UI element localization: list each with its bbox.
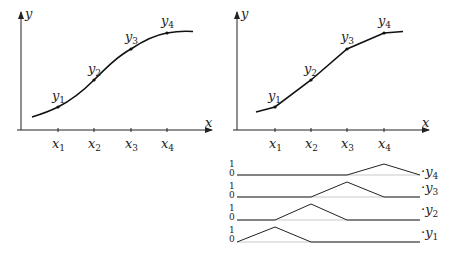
- svg-text:0: 0: [229, 190, 235, 200]
- svg-text:·y2: ·y2: [421, 202, 438, 219]
- svg-text:x4: x4: [161, 136, 174, 153]
- basis-row-y1: 1 0 ·y1: [229, 225, 438, 244]
- left-chart: y x x1 x2 x3 x4 y1 y2 y3 y4: [17, 6, 213, 153]
- svg-text:0: 0: [229, 168, 235, 178]
- svg-text:0: 0: [229, 234, 235, 244]
- x-tick-labels: x1 x2 x3 x4: [269, 136, 391, 153]
- svg-text:y3: y3: [340, 29, 354, 46]
- svg-text:x3: x3: [125, 136, 138, 153]
- basis-row-y3: 1 0 ·y3: [229, 180, 439, 200]
- svg-text:x2: x2: [88, 136, 101, 153]
- svg-text:·y4: ·y4: [421, 164, 439, 181]
- x-axis-label: x: [205, 115, 213, 130]
- x-tick-labels: x1 x2 x3 x4: [52, 136, 174, 153]
- basis-row-y4: 1 0 ·y4: [229, 159, 439, 181]
- diagram-canvas: y x x1 x2 x3 x4 y1 y2 y3 y4: [0, 0, 453, 256]
- svg-text:x1: x1: [52, 136, 65, 153]
- svg-text:·y3: ·y3: [421, 180, 439, 197]
- svg-text:y4: y4: [377, 13, 391, 30]
- svg-text:y3: y3: [124, 29, 138, 46]
- point-labels: y1 y2 y3 y4: [267, 13, 391, 105]
- svg-text:x2: x2: [305, 136, 318, 153]
- svg-text:x1: x1: [269, 136, 282, 153]
- right-chart: y x x1 x2 x3 x4 y1 y2 y3 y4: [233, 6, 430, 153]
- svg-text:x4: x4: [378, 136, 391, 153]
- figure: y x x1 x2 x3 x4 y1 y2 y3 y4: [0, 0, 453, 256]
- y-axis-label: y: [240, 6, 249, 21]
- svg-text:y2: y2: [303, 61, 317, 78]
- x-axis-label: x: [422, 115, 430, 130]
- svg-text:·y1: ·y1: [421, 225, 438, 242]
- svg-text:y1: y1: [51, 88, 65, 105]
- smooth-curve: [32, 31, 193, 117]
- svg-text:0: 0: [229, 212, 235, 222]
- basis-row-y2: 1 0 ·y2: [229, 202, 438, 222]
- svg-text:y1: y1: [267, 88, 281, 105]
- data-points: [273, 31, 385, 108]
- svg-text:y4: y4: [160, 13, 174, 30]
- svg-text:y2: y2: [87, 61, 101, 78]
- svg-text:x3: x3: [341, 136, 354, 153]
- point-labels: y1 y2 y3 y4: [51, 13, 174, 105]
- y-axis-label: y: [24, 6, 33, 21]
- basis-functions: 1 0 ·y4 1 0 ·y3 1 0 ·y2 1 0 ·y1: [229, 159, 439, 244]
